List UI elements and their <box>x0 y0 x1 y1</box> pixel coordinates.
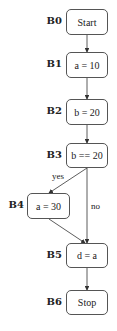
node-id-b3: B3 <box>38 149 62 160</box>
node-id-b2: B2 <box>38 105 62 116</box>
node-id-b6: B6 <box>38 296 62 307</box>
edge-label-yes: yes <box>52 171 64 181</box>
node-b2: b = 20 <box>66 99 108 125</box>
node-b4: a = 30 <box>27 193 70 219</box>
node-b6: Stop <box>66 290 108 315</box>
node-b5: d = a <box>66 243 108 268</box>
node-b3: b == 20 <box>66 143 108 168</box>
node-id-b0: B0 <box>38 15 62 26</box>
node-id-b5: B5 <box>38 249 62 260</box>
edge-label-no: no <box>91 201 100 211</box>
node-b0: Start <box>66 9 108 35</box>
node-b1: a = 10 <box>66 52 108 78</box>
node-id-b4: B4 <box>0 199 24 210</box>
edge-b4-b5 <box>49 219 85 243</box>
node-id-b1: B1 <box>38 58 62 69</box>
